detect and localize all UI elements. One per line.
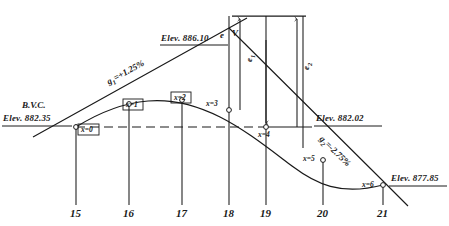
figure-linework: [0, 0, 449, 226]
callout-underlines: [2, 45, 447, 186]
station-label-17: 17: [176, 208, 187, 219]
offset-e-label: e: [220, 31, 224, 40]
station-label-16: 16: [123, 208, 134, 219]
curve-point-label-5: x=5: [303, 155, 315, 163]
curve-point-label-6: x=6: [362, 181, 374, 189]
curve-point-label-2: x=2: [174, 94, 186, 102]
vertex-v-label: V: [232, 29, 238, 38]
mid-elevation-label: Elev. 882.02: [316, 114, 364, 123]
bvc-elevation-label: Elev. 882.35: [3, 114, 51, 123]
dimension-arrows: [240, 19, 297, 127]
pvi-elevation-label: Elev. 886.10: [161, 34, 209, 43]
curve-point-label-0: x=0: [81, 126, 93, 134]
e1-symbol: e: [244, 58, 254, 62]
vertical-curve-figure: B.V.C. Elev. 882.35 Elev. 886.10 Elev. 8…: [0, 0, 449, 226]
curve-point-label-1: x=1: [126, 101, 138, 109]
offset-e1-label: e1: [245, 55, 256, 62]
evc-elevation-label: Elev. 877.85: [391, 174, 439, 183]
station-label-18: 18: [223, 208, 234, 219]
station-label-15: 15: [70, 208, 81, 219]
station-label-20: 20: [317, 208, 328, 219]
e1-subscript: 1: [249, 55, 256, 58]
e2-subscript: 2: [306, 63, 313, 66]
curve-point-label-4: x=4: [258, 131, 270, 139]
offset-e2-label: e2: [302, 63, 313, 70]
back-tangent-line: [33, 18, 247, 137]
station-label-21: 21: [377, 208, 388, 219]
station-label-19: 19: [260, 208, 271, 219]
bvc-tag: B.V.C.: [22, 101, 46, 110]
curve-point-label-3: x=3: [206, 100, 218, 108]
e2-symbol: e: [301, 66, 311, 70]
